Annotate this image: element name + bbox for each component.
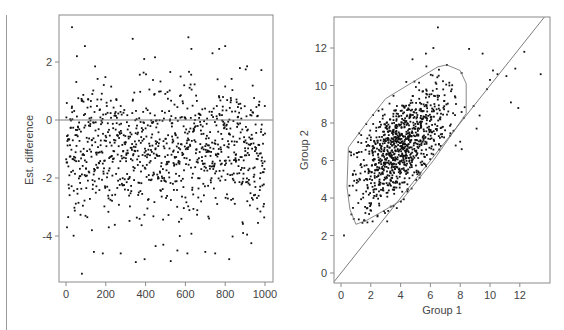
svg-text:2: 2 bbox=[321, 230, 327, 242]
svg-text:0: 0 bbox=[321, 267, 327, 279]
svg-text:400: 400 bbox=[136, 288, 154, 300]
svg-text:0: 0 bbox=[46, 114, 52, 126]
svg-text:800: 800 bbox=[216, 288, 234, 300]
left-plot-frame bbox=[59, 15, 273, 282]
svg-text:4: 4 bbox=[398, 289, 404, 301]
svg-text:6: 6 bbox=[427, 289, 433, 301]
svg-text:600: 600 bbox=[176, 288, 194, 300]
svg-text:200: 200 bbox=[97, 288, 115, 300]
svg-text:2: 2 bbox=[368, 289, 374, 301]
svg-text:0: 0 bbox=[63, 288, 69, 300]
left-y-axis: 20-2-4 bbox=[42, 56, 59, 242]
svg-text:-2: -2 bbox=[42, 172, 52, 184]
svg-text:1000: 1000 bbox=[253, 288, 277, 300]
difference-scatter-plot: 02004006008001000 20-2-4 Est. difference… bbox=[0, 0, 564, 330]
left-points bbox=[65, 26, 266, 274]
svg-text:8: 8 bbox=[457, 289, 463, 301]
left-x-axis: 02004006008001000 bbox=[63, 282, 277, 300]
right-y-axis-label: Group 2 bbox=[298, 130, 310, 170]
svg-text:2: 2 bbox=[46, 56, 52, 68]
svg-text:8: 8 bbox=[321, 117, 327, 129]
svg-text:4: 4 bbox=[321, 192, 327, 204]
svg-text:6: 6 bbox=[321, 155, 327, 167]
right-y-axis: 024681012 bbox=[315, 42, 334, 279]
svg-text:10: 10 bbox=[484, 289, 496, 301]
left-y-axis-label: Est. difference bbox=[23, 115, 35, 185]
svg-text:0: 0 bbox=[338, 289, 344, 301]
right-x-axis: 024681012 bbox=[338, 283, 526, 301]
svg-text:12: 12 bbox=[514, 289, 526, 301]
figure: 02004006008001000 20-2-4 Est. difference… bbox=[0, 0, 564, 330]
right-x-axis-label: Group 1 bbox=[422, 304, 462, 316]
svg-text:12: 12 bbox=[315, 42, 327, 54]
svg-text:-4: -4 bbox=[42, 230, 52, 242]
svg-text:10: 10 bbox=[315, 80, 327, 92]
